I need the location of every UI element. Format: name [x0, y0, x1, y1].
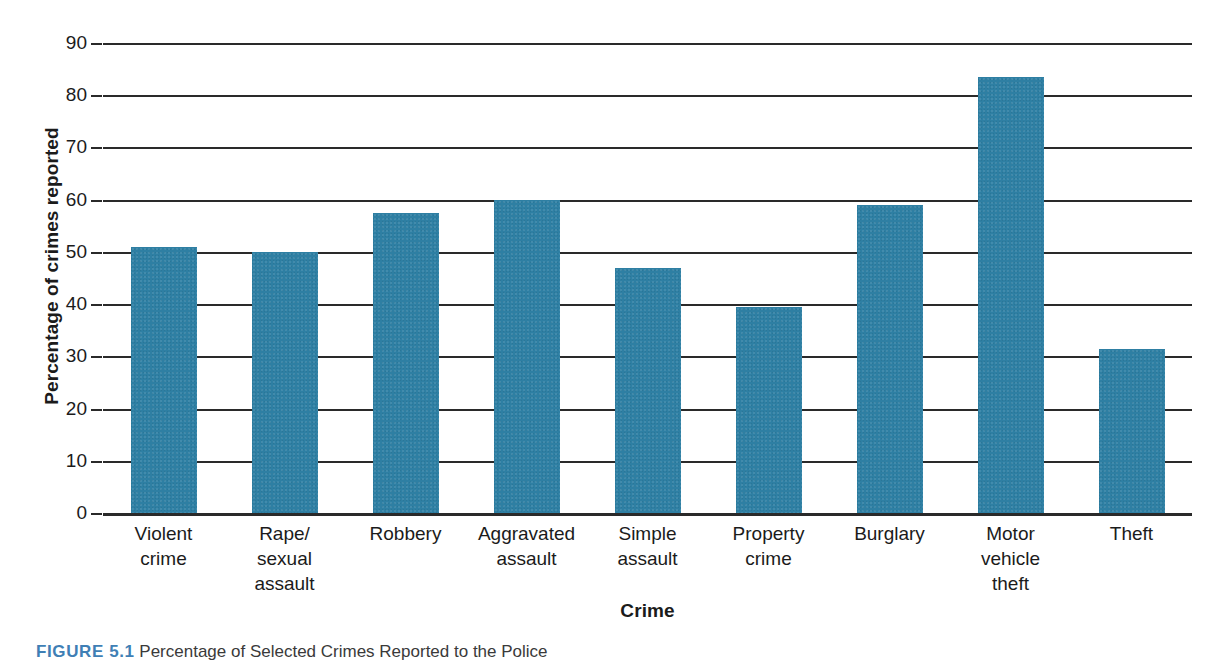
figure-caption: FIGURE 5.1 Percentage of Selected Crimes… [36, 641, 1136, 660]
y-tick-label: 30 [27, 346, 87, 365]
x-category-label: Propertycrime [708, 521, 829, 571]
y-tick-label: 50 [27, 242, 87, 261]
plot-area [103, 43, 1192, 513]
figure-container: Percentage of crimes reported 0102030405… [0, 0, 1216, 660]
bar-slot [224, 43, 345, 513]
y-tick-label: 20 [27, 399, 87, 418]
y-tick-mark [91, 513, 102, 515]
y-tick-mark [91, 147, 102, 149]
bar-slot [1071, 43, 1192, 513]
bar-slot [345, 43, 466, 513]
x-category-label-line: Burglary [829, 521, 950, 546]
x-category-label-line: Simple [587, 521, 708, 546]
y-tick-mark [91, 356, 102, 358]
x-category-label-line: vehicle [950, 546, 1071, 571]
x-category-label-line: Aggravated [466, 521, 587, 546]
y-tick-mark [91, 409, 102, 411]
y-tick-mark [91, 461, 102, 463]
bar[interactable] [252, 252, 318, 513]
x-category-label-line: assault [587, 546, 708, 571]
x-category-label-line: assault [466, 546, 587, 571]
bar-slot [829, 43, 950, 513]
y-tick-label: 0 [27, 503, 87, 522]
y-tick-label: 70 [27, 137, 87, 156]
bar[interactable] [1099, 349, 1165, 514]
bars-group [103, 43, 1192, 513]
bar-slot [587, 43, 708, 513]
x-category-label-line: Theft [1071, 521, 1192, 546]
x-category-label-line: Violent [103, 521, 224, 546]
y-tick-mark [91, 304, 102, 306]
x-category-label-line: Property [708, 521, 829, 546]
x-category-label-line: crime [708, 546, 829, 571]
bar[interactable] [857, 205, 923, 513]
y-tick-mark [91, 200, 102, 202]
y-tick-label: 10 [27, 451, 87, 470]
x-category-label: Robbery [345, 521, 466, 546]
bar[interactable] [373, 213, 439, 513]
bar-slot [708, 43, 829, 513]
bar[interactable] [615, 268, 681, 513]
bar[interactable] [131, 247, 197, 513]
bar[interactable] [494, 200, 560, 513]
y-tick-label: 60 [27, 190, 87, 209]
bar[interactable] [736, 307, 802, 513]
figure-caption-text: Percentage of Selected Crimes Reported t… [139, 642, 547, 660]
y-tick-label: 40 [27, 294, 87, 313]
y-tick-mark [91, 252, 102, 254]
y-tick-label: 90 [27, 33, 87, 52]
x-axis-category-labels: ViolentcrimeRape/sexualassaultRobberyAgg… [103, 521, 1192, 603]
x-category-label-line: Robbery [345, 521, 466, 546]
axis-baseline [103, 513, 1192, 516]
y-tick-mark [91, 95, 102, 97]
x-category-label-line: sexual [224, 546, 345, 571]
x-category-label: Violentcrime [103, 521, 224, 571]
x-category-label-line: Motor [950, 521, 1071, 546]
figure-caption-number: FIGURE 5.1 [36, 642, 135, 660]
x-axis-title: Crime [103, 600, 1192, 622]
y-tick-mark [91, 43, 102, 45]
bar[interactable] [978, 77, 1044, 513]
x-category-label-line: crime [103, 546, 224, 571]
y-tick-label: 80 [27, 85, 87, 104]
bar-slot [103, 43, 224, 513]
x-category-label-line: assault [224, 571, 345, 596]
x-category-label: Rape/sexualassault [224, 521, 345, 596]
x-category-label: Burglary [829, 521, 950, 546]
bar-slot [950, 43, 1071, 513]
x-category-label-line: theft [950, 571, 1071, 596]
x-category-label-line: Rape/ [224, 521, 345, 546]
x-category-label: Aggravatedassault [466, 521, 587, 571]
bar-slot [466, 43, 587, 513]
x-category-label: Simpleassault [587, 521, 708, 571]
x-category-label: Theft [1071, 521, 1192, 546]
x-category-label: Motorvehicletheft [950, 521, 1071, 596]
